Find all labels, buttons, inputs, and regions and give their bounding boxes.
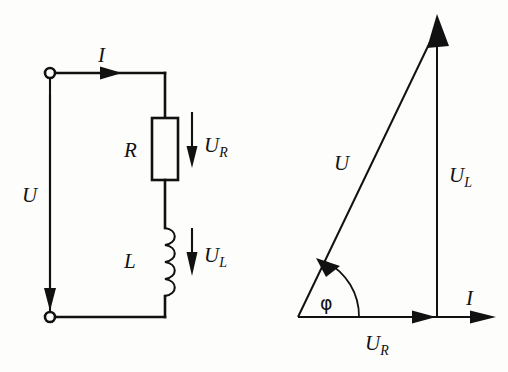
inductor-voltage-subscript: L [218, 255, 227, 270]
resistor-symbol [152, 118, 178, 180]
current-arrowhead [100, 67, 122, 80]
resistor-voltage-vector-arrowhead [412, 311, 436, 324]
current-label: I [97, 43, 106, 67]
figure-svg: I U R UR L UL [0, 0, 508, 372]
terminal-top-left [45, 68, 55, 78]
phasor-ur-subscript: R [379, 343, 389, 358]
inductor-voltage-label: UL [204, 243, 227, 270]
apex-arrowhead [427, 14, 449, 48]
resistor-label: R [123, 138, 137, 162]
inductor-symbol [165, 228, 175, 296]
circuit-group: I U R UR L UL [22, 43, 228, 322]
resistor-voltage-label: UR [204, 133, 228, 160]
resistor-voltage-vector-label: UR [365, 331, 389, 358]
inductor-voltage-vector-label: UL [449, 163, 472, 190]
total-voltage-label: U [334, 151, 351, 175]
inductor-voltage-arrowhead [187, 252, 198, 276]
source-voltage-arrowhead [44, 288, 56, 311]
current-vector-arrowhead [470, 311, 496, 324]
resistor-voltage-arrowhead [187, 146, 198, 168]
phasor-group: U UL UR I φ [298, 14, 496, 358]
terminal-bottom-left [45, 312, 55, 322]
phase-angle-label: φ [320, 292, 333, 314]
figure-canvas: I U R UR L UL [0, 0, 508, 372]
phasor-ul-subscript: L [463, 175, 472, 190]
total-voltage-vector [298, 42, 430, 317]
source-voltage-label: U [22, 183, 39, 207]
inductor-label: L [123, 249, 136, 273]
resistor-voltage-subscript: R [218, 145, 228, 160]
current-vector-label: I [465, 286, 474, 310]
